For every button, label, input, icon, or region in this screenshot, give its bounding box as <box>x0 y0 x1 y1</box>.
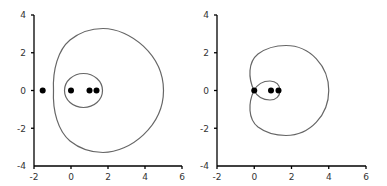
figure: 4 2 0 -2 -4 -2 0 2 4 6 <box>0 0 387 186</box>
x-tick-label: 0 <box>68 172 74 182</box>
left-x-tick-labels: -2 0 2 4 6 <box>30 172 186 182</box>
data-point <box>87 88 93 94</box>
x-tick-label: 4 <box>326 172 332 182</box>
x-tick-label: -2 <box>30 172 39 182</box>
right-points <box>251 88 281 94</box>
right-panel: 4 2 0 -2 -4 -2 0 2 4 6 <box>200 10 369 182</box>
left-points <box>40 88 100 94</box>
y-tick-label: 4 <box>203 10 209 20</box>
x-tick-label: 6 <box>179 172 185 182</box>
y-tick-label: 2 <box>20 48 26 58</box>
right-axes <box>214 15 366 169</box>
data-point <box>268 88 274 94</box>
left-y-tick-labels: 4 2 0 -2 -4 <box>17 10 26 171</box>
data-point <box>94 88 100 94</box>
data-point <box>251 88 257 94</box>
right-limacon-outer <box>250 46 329 136</box>
y-tick-label: -2 <box>200 124 209 134</box>
y-tick-label: 0 <box>203 86 209 96</box>
x-tick-label: 6 <box>363 172 369 182</box>
right-y-tick-labels: 4 2 0 -2 -4 <box>200 10 209 171</box>
x-tick-label: 0 <box>251 172 257 182</box>
y-tick-label: 2 <box>203 48 209 58</box>
y-tick-label: -4 <box>17 161 26 171</box>
y-tick-label: -2 <box>17 124 26 134</box>
x-tick-label: 2 <box>105 172 111 182</box>
y-tick-label: 4 <box>20 10 26 20</box>
data-point <box>276 88 282 94</box>
data-point <box>40 88 46 94</box>
right-x-tick-labels: -2 0 2 4 6 <box>213 172 370 182</box>
x-tick-label: 2 <box>289 172 295 182</box>
data-point <box>68 88 74 94</box>
y-tick-label: 0 <box>20 86 26 96</box>
left-panel: 4 2 0 -2 -4 -2 0 2 4 6 <box>17 10 185 182</box>
x-tick-label: 4 <box>142 172 148 182</box>
y-tick-label: -4 <box>200 161 209 171</box>
x-tick-label: -2 <box>213 172 222 182</box>
